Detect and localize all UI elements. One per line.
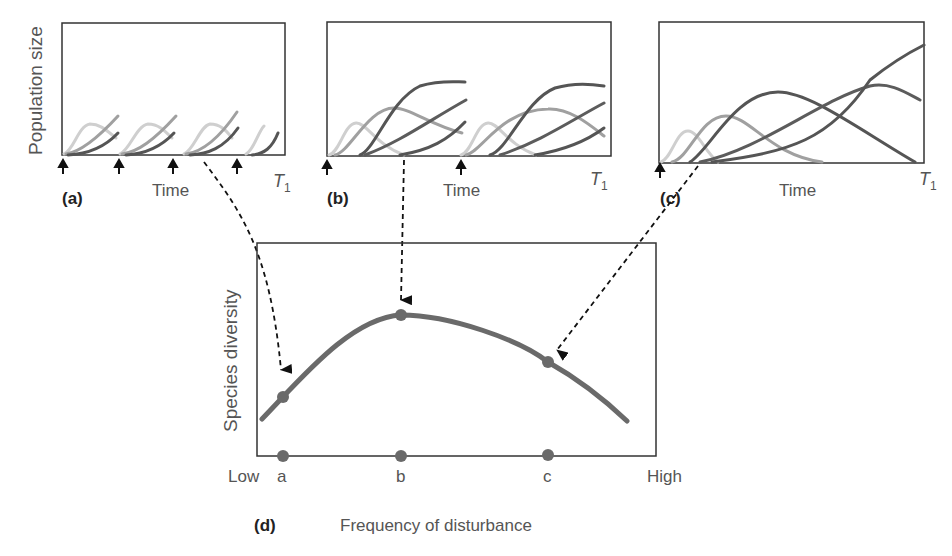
diagram: Population size Time T1 (a) xyxy=(0,0,952,556)
svg-text:T1: T1 xyxy=(273,171,291,195)
x-tick-b: b xyxy=(396,467,405,486)
y-axis-label-population: Population size xyxy=(25,26,46,155)
panel-c: Time T1 (c) xyxy=(656,22,937,208)
panel-label-d: (d) xyxy=(254,516,276,535)
x-tick-c: c xyxy=(543,467,552,486)
x-axis-label-frequency: Frequency of disturbance xyxy=(340,516,532,535)
x-axis-label-time-c: Time xyxy=(779,181,816,200)
y-axis-label-diversity: Species diversity xyxy=(220,289,241,432)
panel-d: Species diversity Low a b c High (d) Fre… xyxy=(220,243,682,535)
x-tick-low: Low xyxy=(228,467,260,486)
x-axis-label-time-b: Time xyxy=(443,181,480,200)
point-a xyxy=(277,391,289,403)
svg-text:T1: T1 xyxy=(919,169,937,193)
panel-b: Time T1 (b) xyxy=(323,22,611,208)
panel-label-b: (b) xyxy=(327,189,349,208)
point-b xyxy=(395,309,407,321)
panel-label-c: (c) xyxy=(660,189,681,208)
x-tick-high: High xyxy=(647,467,682,486)
point-c xyxy=(542,356,554,368)
x-tick-a: a xyxy=(277,467,287,486)
panel-a: Population size Time T1 (a) xyxy=(25,23,291,208)
panel-label-a: (a) xyxy=(62,189,83,208)
x-axis-label-time-a: Time xyxy=(152,181,189,200)
disturbance-arrows xyxy=(59,160,241,174)
svg-text:T1: T1 xyxy=(590,169,608,193)
